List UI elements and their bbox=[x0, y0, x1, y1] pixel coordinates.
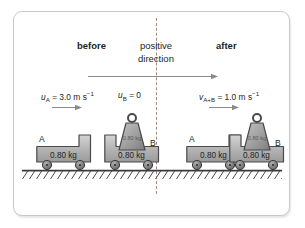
weight-block-after bbox=[241, 112, 273, 152]
velocity-exponent-a: −1 bbox=[87, 90, 94, 97]
weight-block-before bbox=[116, 112, 148, 152]
positive-direction-line-1: positive bbox=[104, 40, 208, 53]
after-label: after bbox=[216, 40, 237, 51]
cart-a-after-id: A bbox=[189, 134, 195, 144]
cart-a-before-id: A bbox=[39, 134, 45, 144]
velocity-unit-a: m s bbox=[73, 92, 87, 102]
cart-b-before-id: B bbox=[150, 138, 156, 148]
velocity-subscript-a: A bbox=[46, 96, 50, 103]
velocity-value-ab: 1.0 bbox=[225, 92, 237, 102]
velocity-subscript-ab: A+B bbox=[203, 96, 215, 103]
velocity-value-a: 3.0 bbox=[59, 92, 71, 102]
cart-b-after-id: B bbox=[275, 138, 281, 148]
velocity-unit-ab: m s bbox=[239, 92, 253, 102]
before-label: before bbox=[77, 40, 106, 51]
velocity-label-b-before: uB = 0 bbox=[118, 90, 141, 102]
positive-direction-label: positive direction bbox=[104, 40, 208, 65]
velocity-arrow-ab-icon bbox=[209, 104, 239, 111]
cart-a-before bbox=[36, 134, 98, 172]
positive-direction-arrow-icon bbox=[88, 73, 218, 80]
velocity-label-ab-after: vA+B = 1.0 m s−1 bbox=[199, 90, 259, 103]
velocity-value-b: 0 bbox=[136, 90, 141, 100]
velocity-subscript-b: B bbox=[123, 95, 127, 102]
momentum-collision-figure: before after positive direction uA = 3.0… bbox=[0, 0, 305, 228]
velocity-label-a-before: uA = 3.0 m s−1 bbox=[41, 90, 94, 103]
positive-direction-line-2: direction bbox=[104, 53, 208, 66]
velocity-arrow-a-icon bbox=[52, 104, 82, 111]
velocity-exponent-ab: −1 bbox=[252, 90, 259, 97]
